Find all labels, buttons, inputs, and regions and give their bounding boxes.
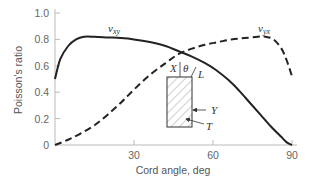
inset-label-l: L bbox=[197, 68, 204, 80]
poisson-ratio-chart: 00.20.40.60.81.0 306090 Poisson's ratio … bbox=[0, 0, 314, 183]
y-ticks: 00.20.40.60.81.0 bbox=[34, 7, 60, 151]
y-tick-label: 0.2 bbox=[34, 113, 49, 125]
x-tick-label: 90 bbox=[286, 149, 298, 161]
y-tick-label: 0.4 bbox=[34, 86, 49, 98]
x-tick-label: 60 bbox=[207, 149, 219, 161]
y-tick-label: 0.8 bbox=[34, 33, 49, 45]
y-tick-label: 1.0 bbox=[34, 7, 49, 19]
y-axis-title: Poisson's ratio bbox=[12, 46, 24, 114]
x-ticks: 306090 bbox=[128, 140, 298, 161]
inset-label-t: T bbox=[206, 120, 213, 132]
specimen-inset: X θ L Y T bbox=[167, 62, 219, 132]
series-label-vyx-sub: yx bbox=[262, 27, 271, 36]
y-tick-label: 0 bbox=[43, 139, 49, 151]
inset-label-theta: θ bbox=[183, 62, 189, 74]
y-tick-label: 0.6 bbox=[34, 60, 49, 72]
inset-label-x: X bbox=[169, 62, 178, 74]
series-label-vxy: vxy bbox=[108, 22, 120, 36]
series-label-vxy-sub: xy bbox=[112, 27, 121, 36]
x-tick-label: 30 bbox=[128, 149, 140, 161]
inset-label-y: Y bbox=[211, 104, 219, 116]
x-axis-title: Cord angle, deg bbox=[136, 164, 211, 176]
series-label-vyx: vyx bbox=[258, 22, 270, 36]
cord-direction-line bbox=[191, 67, 196, 77]
